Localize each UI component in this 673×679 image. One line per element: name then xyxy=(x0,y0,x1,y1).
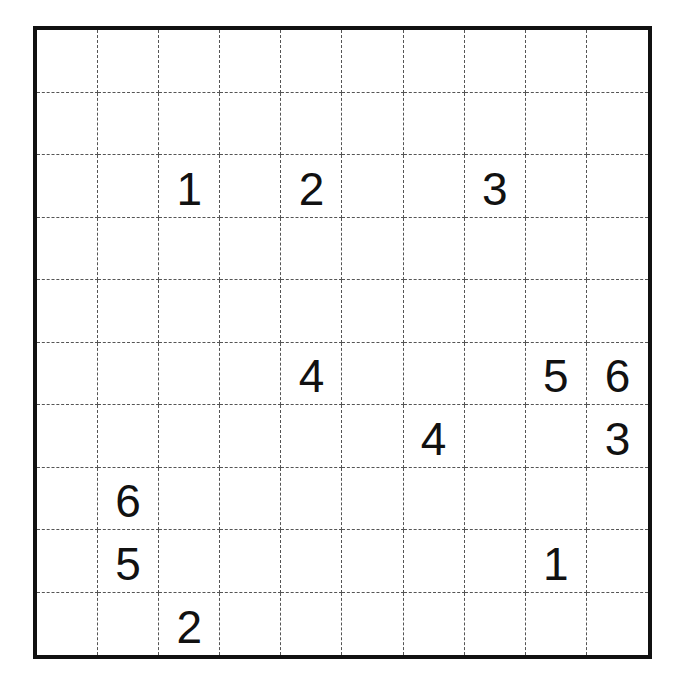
grid-cell-r5-c5[interactable] xyxy=(342,343,403,406)
grid-cell-r2-c7[interactable]: 3 xyxy=(465,155,526,218)
grid-cell-r8-c7[interactable] xyxy=(465,530,526,593)
grid-cell-r0-c6[interactable] xyxy=(404,30,465,93)
grid-cell-r5-c0[interactable] xyxy=(37,343,98,406)
grid-cell-r6-c5[interactable] xyxy=(342,405,403,468)
grid-cell-r5-c8[interactable]: 5 xyxy=(526,343,587,406)
grid-cell-r8-c5[interactable] xyxy=(342,530,403,593)
grid-cell-r9-c0[interactable] xyxy=(37,593,98,656)
grid-cell-r7-c8[interactable] xyxy=(526,468,587,531)
grid-cell-r2-c8[interactable] xyxy=(526,155,587,218)
grid-cell-r7-c0[interactable] xyxy=(37,468,98,531)
grid-cell-r2-c2[interactable]: 1 xyxy=(159,155,220,218)
grid-cell-r5-c7[interactable] xyxy=(465,343,526,406)
grid-cell-r0-c7[interactable] xyxy=(465,30,526,93)
grid-cell-r4-c7[interactable] xyxy=(465,280,526,343)
grid-cell-r9-c1[interactable] xyxy=(98,593,159,656)
grid-cell-r0-c0[interactable] xyxy=(37,30,98,93)
grid-cell-r2-c5[interactable] xyxy=(342,155,403,218)
grid-cell-r6-c8[interactable] xyxy=(526,405,587,468)
grid-cell-r7-c6[interactable] xyxy=(404,468,465,531)
grid-cell-r5-c3[interactable] xyxy=(220,343,281,406)
grid-cell-r5-c9[interactable]: 6 xyxy=(587,343,648,406)
grid-cell-r9-c7[interactable] xyxy=(465,593,526,656)
grid-cell-r6-c2[interactable] xyxy=(159,405,220,468)
grid-cell-r1-c9[interactable] xyxy=(587,93,648,156)
grid-cell-r3-c8[interactable] xyxy=(526,218,587,281)
grid-cell-r1-c3[interactable] xyxy=(220,93,281,156)
grid-cell-r1-c4[interactable] xyxy=(281,93,342,156)
grid-cell-r3-c3[interactable] xyxy=(220,218,281,281)
grid-cell-r7-c1[interactable]: 6 xyxy=(98,468,159,531)
grid-cell-r1-c6[interactable] xyxy=(404,93,465,156)
grid-cell-r9-c8[interactable] xyxy=(526,593,587,656)
grid-cell-r9-c3[interactable] xyxy=(220,593,281,656)
grid-cell-r3-c4[interactable] xyxy=(281,218,342,281)
grid-cell-r1-c1[interactable] xyxy=(98,93,159,156)
grid-cell-r4-c0[interactable] xyxy=(37,280,98,343)
grid-cell-r2-c3[interactable] xyxy=(220,155,281,218)
grid-cell-r2-c1[interactable] xyxy=(98,155,159,218)
grid-cell-r4-c9[interactable] xyxy=(587,280,648,343)
grid-cell-r4-c2[interactable] xyxy=(159,280,220,343)
grid-cell-r0-c2[interactable] xyxy=(159,30,220,93)
grid-cell-r4-c6[interactable] xyxy=(404,280,465,343)
grid-cell-r3-c9[interactable] xyxy=(587,218,648,281)
grid-cell-r3-c0[interactable] xyxy=(37,218,98,281)
grid-cell-r9-c6[interactable] xyxy=(404,593,465,656)
grid-cell-r6-c9[interactable]: 3 xyxy=(587,405,648,468)
grid-cell-r7-c3[interactable] xyxy=(220,468,281,531)
grid-cell-r5-c6[interactable] xyxy=(404,343,465,406)
grid-cell-r8-c9[interactable] xyxy=(587,530,648,593)
grid-cell-r3-c5[interactable] xyxy=(342,218,403,281)
grid-cell-r6-c4[interactable] xyxy=(281,405,342,468)
grid-cell-r6-c7[interactable] xyxy=(465,405,526,468)
grid-cell-r4-c3[interactable] xyxy=(220,280,281,343)
grid-cell-r3-c7[interactable] xyxy=(465,218,526,281)
grid-cell-r8-c4[interactable] xyxy=(281,530,342,593)
grid-cell-r8-c3[interactable] xyxy=(220,530,281,593)
grid-cell-r8-c6[interactable] xyxy=(404,530,465,593)
grid-cell-r2-c9[interactable] xyxy=(587,155,648,218)
grid-cell-r4-c4[interactable] xyxy=(281,280,342,343)
grid-cell-r7-c7[interactable] xyxy=(465,468,526,531)
grid-cell-r2-c0[interactable] xyxy=(37,155,98,218)
grid-cell-r0-c9[interactable] xyxy=(587,30,648,93)
grid-cell-r1-c5[interactable] xyxy=(342,93,403,156)
grid-cell-r5-c4[interactable]: 4 xyxy=(281,343,342,406)
grid-cell-r1-c0[interactable] xyxy=(37,93,98,156)
grid-cell-r2-c4[interactable]: 2 xyxy=(281,155,342,218)
grid-cell-r0-c1[interactable] xyxy=(98,30,159,93)
grid-cell-r6-c3[interactable] xyxy=(220,405,281,468)
grid-cell-r5-c1[interactable] xyxy=(98,343,159,406)
grid-cell-r0-c4[interactable] xyxy=(281,30,342,93)
grid-cell-r1-c7[interactable] xyxy=(465,93,526,156)
grid-cell-r7-c4[interactable] xyxy=(281,468,342,531)
grid-cell-r3-c2[interactable] xyxy=(159,218,220,281)
grid-cell-r4-c8[interactable] xyxy=(526,280,587,343)
grid-cell-r7-c9[interactable] xyxy=(587,468,648,531)
grid-cell-r6-c1[interactable] xyxy=(98,405,159,468)
grid-cell-r7-c2[interactable] xyxy=(159,468,220,531)
grid-cell-r8-c1[interactable]: 5 xyxy=(98,530,159,593)
grid-cell-r9-c2[interactable]: 2 xyxy=(159,593,220,656)
grid-cell-r9-c9[interactable] xyxy=(587,593,648,656)
grid-cell-r8-c8[interactable]: 1 xyxy=(526,530,587,593)
grid-cell-r1-c8[interactable] xyxy=(526,93,587,156)
grid-cell-r6-c0[interactable] xyxy=(37,405,98,468)
grid-cell-r3-c1[interactable] xyxy=(98,218,159,281)
grid-cell-r1-c2[interactable] xyxy=(159,93,220,156)
grid-cell-r3-c6[interactable] xyxy=(404,218,465,281)
grid-cell-r8-c0[interactable] xyxy=(37,530,98,593)
grid-cell-r0-c5[interactable] xyxy=(342,30,403,93)
grid-cell-r5-c2[interactable] xyxy=(159,343,220,406)
grid-cell-r9-c4[interactable] xyxy=(281,593,342,656)
grid-cell-r0-c3[interactable] xyxy=(220,30,281,93)
grid-cell-r0-c8[interactable] xyxy=(526,30,587,93)
grid-cell-r7-c5[interactable] xyxy=(342,468,403,531)
grid-cell-r4-c1[interactable] xyxy=(98,280,159,343)
grid-cell-r8-c2[interactable] xyxy=(159,530,220,593)
grid-cell-r6-c6[interactable]: 4 xyxy=(404,405,465,468)
grid-cell-r9-c5[interactable] xyxy=(342,593,403,656)
grid-cell-r4-c5[interactable] xyxy=(342,280,403,343)
grid-cell-r2-c6[interactable] xyxy=(404,155,465,218)
